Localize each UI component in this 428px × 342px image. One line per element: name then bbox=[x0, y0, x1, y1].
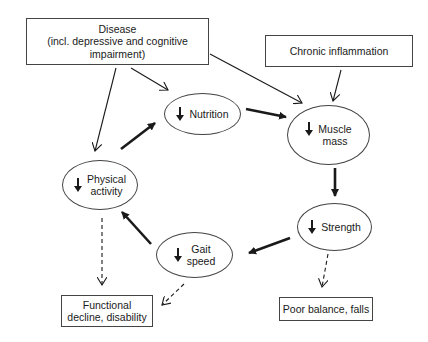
edge-gait-speed-functional-decline bbox=[162, 284, 184, 305]
disease-label-line3: impairment) bbox=[47, 48, 188, 61]
disease-label-line2: (incl. depressive and cognitive bbox=[47, 35, 188, 48]
disease-label: Disease (incl. depressive and cognitive … bbox=[47, 23, 188, 61]
functional-decline-label-line2: decline, disability bbox=[67, 311, 146, 324]
edge-nutrition-muscle-mass bbox=[246, 109, 286, 117]
disease-label-line1: Disease bbox=[47, 23, 188, 36]
edge-strength-gait-speed bbox=[249, 238, 290, 253]
decrease-arrow-icon bbox=[305, 122, 313, 136]
physical-activity-label-line1: Physical bbox=[87, 173, 126, 186]
chronic-inflammation-box: Chronic inflammation bbox=[265, 35, 413, 67]
muscle-mass-node: Muscle mass bbox=[287, 105, 370, 165]
chronic-inflammation-label: Chronic inflammation bbox=[290, 45, 389, 58]
decrease-arrow-icon bbox=[176, 107, 184, 121]
poor-balance-box: Poor balance, falls bbox=[279, 297, 373, 321]
muscle-mass-label-line2: mass bbox=[318, 135, 351, 148]
gait-speed-node: Gait speed bbox=[156, 232, 233, 278]
nutrition-node: Nutrition bbox=[164, 93, 241, 135]
functional-decline-box: Functional decline, disability bbox=[61, 295, 153, 327]
physical-activity-label-line2: activity bbox=[87, 185, 126, 198]
disease-box: Disease (incl. depressive and cognitive … bbox=[26, 18, 209, 65]
functional-decline-label: Functional decline, disability bbox=[67, 299, 146, 324]
physical-activity-label: Physical activity bbox=[87, 173, 126, 198]
functional-decline-label-line1: Functional bbox=[67, 299, 146, 312]
muscle-mass-label: Muscle mass bbox=[318, 123, 351, 148]
poor-balance-label: Poor balance, falls bbox=[283, 303, 369, 316]
edge-physical-activity-nutrition bbox=[121, 123, 155, 149]
physical-activity-node: Physical activity bbox=[62, 160, 138, 210]
gait-speed-label-line1: Gait bbox=[187, 243, 216, 256]
strength-label: Strength bbox=[321, 221, 361, 234]
gait-speed-label: Gait speed bbox=[187, 243, 216, 268]
strength-node: Strength bbox=[297, 203, 372, 251]
nutrition-label: Nutrition bbox=[189, 108, 228, 121]
decrease-arrow-icon bbox=[174, 248, 182, 262]
muscle-mass-label-line1: Muscle bbox=[318, 123, 351, 136]
gait-speed-label-line2: speed bbox=[187, 255, 216, 268]
decrease-arrow-icon bbox=[74, 178, 82, 192]
decrease-arrow-icon bbox=[308, 220, 316, 234]
edge-disease-nutrition bbox=[131, 68, 168, 90]
edge-disease-physical-activity bbox=[95, 68, 116, 151]
edge-inflammation-muscle-mass bbox=[333, 70, 341, 101]
edge-gait-speed-physical-activity bbox=[122, 212, 151, 244]
edge-strength-poor-balance bbox=[322, 254, 328, 287]
